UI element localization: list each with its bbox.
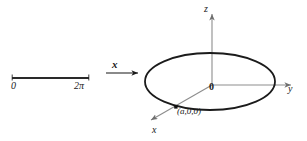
y-axis-label: y: [288, 84, 292, 94]
z-axis-label: z: [204, 4, 208, 14]
space-diagram: [145, 14, 291, 120]
x-axis-label: x: [152, 125, 156, 135]
figure-canvas: [0, 0, 307, 141]
interval-end-label: 2π: [74, 81, 84, 91]
parametrization-figure: 0 2π x z y x 0 (a,0,0): [0, 0, 307, 141]
map-arrow-label: x: [112, 59, 118, 70]
origin-label: 0: [209, 82, 214, 92]
point-coordinate-label: (a,0,0): [177, 107, 201, 116]
interval-start-label: 0: [11, 81, 16, 91]
